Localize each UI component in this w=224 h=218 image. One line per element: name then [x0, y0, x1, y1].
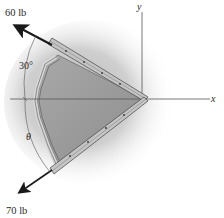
- force-arrow-70lb: [20, 170, 52, 192]
- label-angle-theta: θ: [26, 131, 31, 142]
- label-angle-30: 30°: [19, 60, 33, 71]
- label-60lb: 60 lb: [5, 7, 26, 18]
- label-70lb: 70 lb: [6, 205, 27, 216]
- label-y-axis: y: [136, 1, 142, 12]
- force-diagram: 60 lb 70 lb 30° θ y x: [0, 0, 224, 218]
- label-x-axis: x: [210, 93, 216, 104]
